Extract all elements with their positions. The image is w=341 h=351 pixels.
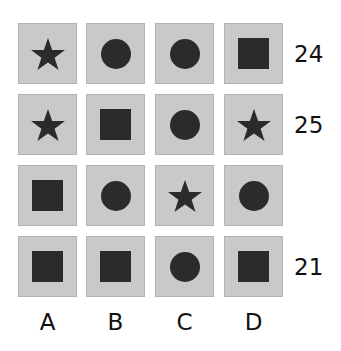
grid-cell-d2: [224, 94, 283, 155]
row-sum-label: 21: [294, 256, 323, 279]
row-sum-label: 24: [294, 43, 323, 66]
square-icon: [238, 38, 269, 69]
square-icon: [100, 251, 131, 282]
circle-icon: [239, 181, 269, 211]
grid-cell-b3: [86, 165, 145, 226]
grid-cell-a2: [18, 94, 77, 155]
grid-cell-c1: [155, 23, 214, 84]
grid-cell-c4: [155, 236, 214, 297]
grid-cell-d1: [224, 23, 283, 84]
grid-cell-a3: [18, 165, 77, 226]
column-label: C: [155, 311, 214, 334]
star-icon: [167, 179, 203, 213]
circle-icon: [101, 181, 131, 211]
grid-cell-d3: [224, 165, 283, 226]
circle-icon: [170, 39, 200, 69]
circle-icon: [170, 110, 200, 140]
grid-cell-c3: [155, 165, 214, 226]
star-icon: [30, 37, 66, 71]
grid-cell-b4: [86, 236, 145, 297]
column-label: D: [224, 311, 283, 334]
row-sum-label: 25: [294, 114, 323, 137]
circle-icon: [101, 39, 131, 69]
grid-cell-a1: [18, 23, 77, 84]
grid-cell-b2: [86, 94, 145, 155]
star-icon: [236, 108, 272, 142]
grid-cell-c2: [155, 94, 214, 155]
grid-cell-b1: [86, 23, 145, 84]
column-label: A: [18, 311, 77, 334]
square-icon: [32, 251, 63, 282]
grid-cell-a4: [18, 236, 77, 297]
square-icon: [32, 180, 63, 211]
square-icon: [100, 109, 131, 140]
star-icon: [30, 108, 66, 142]
column-label: B: [86, 311, 145, 334]
grid-cell-d4: [224, 236, 283, 297]
square-icon: [238, 251, 269, 282]
circle-icon: [170, 252, 200, 282]
